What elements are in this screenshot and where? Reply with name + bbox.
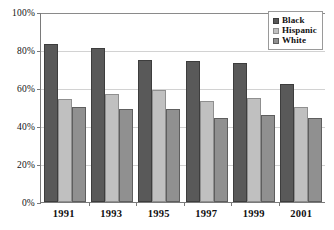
x-tick-mark (279, 202, 280, 206)
y-tick-label: 20% (0, 160, 35, 170)
bar-white-1999 (261, 115, 275, 202)
legend: BlackHispanicWhite (268, 11, 323, 50)
bar-white-2001 (308, 118, 322, 202)
x-tick-mark (89, 202, 90, 206)
bar-hispanic-1993 (105, 94, 119, 202)
y-tick-mark (37, 127, 41, 128)
legend-item-black: Black (273, 16, 317, 25)
bar-hispanic-2001 (294, 107, 308, 202)
legend-label: White (282, 36, 306, 45)
bar-black-2001 (280, 84, 294, 202)
legend-label: Hispanic (282, 26, 317, 35)
bar-hispanic-1999 (247, 98, 261, 203)
bar-black-1993 (91, 48, 105, 202)
y-tick-mark (37, 51, 41, 52)
legend-swatch-icon (273, 38, 279, 44)
legend-label: Black (282, 16, 305, 25)
y-tick-mark (37, 203, 41, 204)
bar-white-1997 (214, 118, 228, 202)
bar-hispanic-1997 (200, 101, 214, 202)
y-tick-label: 80% (0, 46, 35, 56)
y-tick-label: 60% (0, 84, 35, 94)
bar-hispanic-1991 (58, 99, 72, 202)
bar-group (136, 13, 183, 202)
bar-black-1999 (233, 63, 247, 202)
y-tick-label: 40% (0, 122, 35, 132)
legend-swatch-icon (273, 28, 279, 34)
x-tick-label-2001: 2001 (271, 208, 331, 219)
bar-group (183, 13, 230, 202)
bar-black-1995 (138, 60, 152, 203)
y-tick-mark (37, 13, 41, 14)
bar-black-1997 (186, 61, 200, 202)
bar-white-1991 (72, 107, 86, 202)
x-tick-mark (184, 202, 185, 206)
y-tick-label: 100% (0, 8, 35, 18)
legend-item-white: White (273, 36, 317, 45)
bar-hispanic-1995 (152, 90, 166, 202)
bar-group (41, 13, 88, 202)
bar-group (88, 13, 135, 202)
y-tick-mark (37, 165, 41, 166)
x-tick-mark (231, 202, 232, 206)
bar-black-1991 (44, 44, 58, 202)
legend-swatch-icon (273, 18, 279, 24)
y-tick-mark (37, 89, 41, 90)
bar-white-1995 (166, 109, 180, 202)
legend-item-hispanic: Hispanic (273, 26, 317, 35)
x-tick-mark (136, 202, 137, 206)
bar-chart: 0%20%40%60%80%100% 199119931995199719992… (0, 0, 334, 230)
bar-white-1993 (119, 109, 133, 202)
y-tick-label: 0% (0, 198, 35, 208)
